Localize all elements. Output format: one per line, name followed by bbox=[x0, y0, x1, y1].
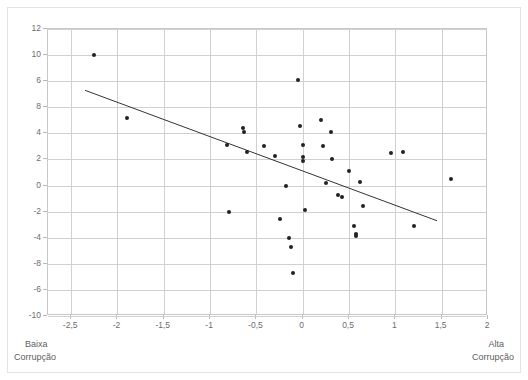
y-tick-label: 4 bbox=[36, 127, 41, 137]
x-tick-label: 2 bbox=[485, 320, 490, 330]
axis-annotation-high-corruption: Alta Corrupção bbox=[472, 338, 514, 363]
data-point bbox=[412, 224, 416, 228]
data-point bbox=[319, 118, 323, 122]
data-point bbox=[298, 124, 302, 128]
data-point bbox=[401, 150, 405, 154]
y-tick-label: 10 bbox=[32, 49, 41, 59]
axis-annotation-low-corruption: Baixa Corrupção bbox=[14, 338, 56, 363]
x-tick-label: -0,5 bbox=[248, 320, 263, 330]
y-tick-label: 12 bbox=[32, 23, 41, 33]
data-point bbox=[340, 195, 344, 199]
annotation-high-line2: Corrupção bbox=[472, 351, 514, 364]
annotation-high-line1: Alta bbox=[472, 338, 514, 351]
data-point bbox=[301, 143, 305, 147]
x-tick-label: 1 bbox=[392, 320, 397, 330]
data-point bbox=[289, 245, 293, 249]
data-point bbox=[347, 169, 351, 173]
x-tick-label: 0 bbox=[299, 320, 304, 330]
data-point bbox=[287, 236, 291, 240]
data-point bbox=[125, 116, 129, 120]
data-points-layer bbox=[48, 29, 486, 314]
gridline-horizontal bbox=[48, 316, 486, 317]
data-point bbox=[330, 157, 334, 161]
x-tick-label: -1 bbox=[205, 320, 213, 330]
data-point bbox=[245, 150, 249, 154]
y-tick-label: 2 bbox=[36, 153, 41, 163]
x-tick-label: -1,5 bbox=[155, 320, 170, 330]
x-axis-tick-labels: -2,5-2-1,5-1-0,500,511,52 bbox=[0, 320, 528, 334]
data-point bbox=[354, 234, 358, 238]
data-point bbox=[358, 180, 362, 184]
y-tick-label: 0 bbox=[36, 180, 41, 190]
data-point bbox=[301, 159, 305, 163]
data-point bbox=[227, 210, 231, 214]
data-point bbox=[296, 78, 300, 82]
data-point bbox=[284, 184, 288, 188]
y-tick-label: 6 bbox=[36, 75, 41, 85]
x-tick-label: 0,5 bbox=[342, 320, 354, 330]
y-tick-label: 8 bbox=[36, 101, 41, 111]
data-point bbox=[389, 151, 393, 155]
x-tick-label: -2 bbox=[113, 320, 121, 330]
data-point bbox=[324, 181, 328, 185]
plot-area bbox=[47, 28, 487, 315]
y-tick-label: -8 bbox=[33, 258, 41, 268]
data-point bbox=[361, 204, 365, 208]
data-point bbox=[352, 224, 356, 228]
x-tick-label: 1,5 bbox=[435, 320, 447, 330]
x-tick-label: -2,5 bbox=[63, 320, 78, 330]
annotation-low-line1: Baixa bbox=[14, 338, 56, 351]
data-point bbox=[449, 177, 453, 181]
data-point bbox=[278, 217, 282, 221]
y-tick-mark bbox=[43, 315, 47, 316]
y-tick-label: -2 bbox=[33, 206, 41, 216]
data-point bbox=[321, 144, 325, 148]
data-point bbox=[242, 130, 246, 134]
data-point bbox=[273, 154, 277, 158]
y-tick-label: -10 bbox=[29, 310, 41, 320]
data-point bbox=[92, 53, 96, 57]
y-tick-label: -6 bbox=[33, 284, 41, 294]
scatter-chart-figure: 121068420-2-4-8-6-10 -2,5-2-1,5-1-0,500,… bbox=[0, 0, 528, 380]
data-point bbox=[329, 130, 333, 134]
y-tick-label: -4 bbox=[33, 232, 41, 242]
data-point bbox=[291, 271, 295, 275]
annotation-low-line2: Corrupção bbox=[14, 351, 56, 364]
data-point bbox=[225, 143, 229, 147]
data-point bbox=[303, 208, 307, 212]
data-point bbox=[262, 144, 266, 148]
